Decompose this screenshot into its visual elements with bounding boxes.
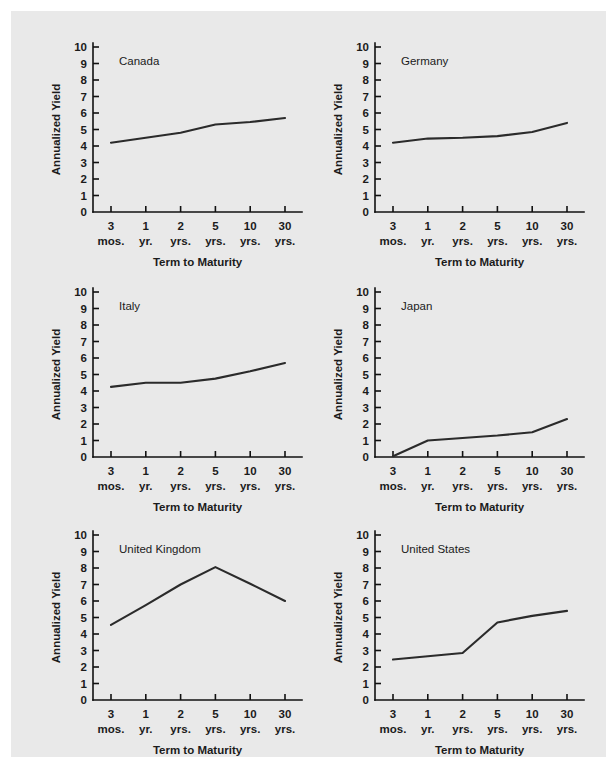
- x-tick-label-unit: yr.: [421, 480, 434, 492]
- x-tick-label-unit: yrs.: [170, 235, 190, 247]
- y-tick-label: 7: [363, 91, 369, 103]
- x-tick-label-unit: yrs.: [275, 480, 295, 492]
- x-tick-label-unit: yrs.: [522, 480, 542, 492]
- y-tick-label: 0: [363, 206, 369, 218]
- y-tick-label: 5: [81, 369, 88, 381]
- y-tick-label: 3: [81, 645, 87, 657]
- chart-italy: 0123456789103mos.1yr.2yrs.5yrs.10yrs.30y…: [25, 270, 315, 515]
- x-tick-label-unit: yrs.: [205, 480, 225, 492]
- x-tick-label-unit: yrs.: [205, 235, 225, 247]
- figure-panel: 0123456789103mos.1yr.2yrs.5yrs.10yrs.30y…: [11, 11, 606, 757]
- y-tick-label: 10: [356, 529, 369, 541]
- x-tick-label-unit: yrs.: [452, 235, 472, 247]
- y-tick-label: 3: [363, 402, 369, 414]
- x-tick-label-unit: yr.: [139, 235, 152, 247]
- y-tick-label: 5: [363, 369, 370, 381]
- y-tick-label: 4: [363, 628, 370, 640]
- x-tick-label-unit: mos.: [98, 235, 125, 247]
- y-tick-label: 1: [81, 435, 88, 447]
- x-tick-label-unit: yrs.: [240, 723, 260, 735]
- x-axis-title: Term to Maturity: [435, 744, 525, 756]
- y-tick-label: 1: [363, 435, 370, 447]
- y-tick-label: 9: [81, 58, 87, 70]
- x-tick-label-unit: yrs.: [522, 723, 542, 735]
- y-tick-label: 4: [81, 140, 88, 152]
- y-tick-label: 10: [74, 529, 87, 541]
- y-tick-label: 8: [363, 319, 370, 331]
- x-tick-label-unit: yrs.: [522, 235, 542, 247]
- x-axis-title: Term to Maturity: [435, 501, 525, 513]
- y-tick-label: 2: [363, 661, 369, 673]
- x-tick-label-value: 1: [425, 220, 432, 232]
- x-tick-label-unit: yrs.: [487, 480, 507, 492]
- x-tick-label-value: 1: [143, 465, 150, 477]
- y-tick-label: 9: [81, 303, 87, 315]
- x-tick-label-value: 3: [390, 465, 396, 477]
- y-tick-label: 10: [74, 286, 87, 298]
- x-tick-label-unit: yrs.: [240, 235, 260, 247]
- y-tick-label: 0: [81, 451, 87, 463]
- chart-title: Germany: [401, 55, 449, 67]
- x-tick-label-unit: mos.: [380, 235, 407, 247]
- y-axis-title: Annualized Yield: [332, 329, 344, 420]
- x-tick-label-value: 1: [143, 708, 150, 720]
- y-tick-label: 2: [81, 173, 87, 185]
- y-axis-title-group: Annualized Yield: [50, 572, 62, 663]
- x-tick-label-unit: yrs.: [170, 723, 190, 735]
- y-tick-label: 5: [363, 612, 370, 624]
- x-tick-label-value: 2: [177, 708, 183, 720]
- chart-title: United States: [401, 543, 470, 555]
- y-tick-label: 4: [363, 140, 370, 152]
- x-axis-title: Term to Maturity: [153, 256, 243, 268]
- x-tick-label-value: 5: [212, 708, 219, 720]
- series-line-yield: [111, 118, 285, 143]
- x-tick-label-value: 1: [143, 220, 150, 232]
- x-tick-label-value: 10: [526, 708, 539, 720]
- y-axis-title-group: Annualized Yield: [50, 329, 62, 420]
- series-line-yield: [393, 419, 567, 456]
- y-tick-label: 7: [363, 579, 369, 591]
- y-axis-title-group: Annualized Yield: [332, 84, 344, 175]
- x-axis-title: Term to Maturity: [153, 501, 243, 513]
- x-tick-label-value: 2: [459, 220, 465, 232]
- y-tick-label: 1: [81, 678, 88, 690]
- y-tick-label: 2: [81, 661, 87, 673]
- y-tick-label: 2: [81, 418, 87, 430]
- series-line-yield: [111, 567, 285, 625]
- x-tick-label-value: 3: [108, 465, 114, 477]
- x-tick-label-unit: yrs.: [240, 480, 260, 492]
- chart-japan: 0123456789103mos.1yr.2yrs.5yrs.10yrs.30y…: [307, 270, 597, 515]
- y-tick-label: 7: [81, 91, 87, 103]
- y-tick-label: 1: [363, 678, 370, 690]
- x-tick-label-unit: yrs.: [487, 235, 507, 247]
- figure-canvas: 0123456789103mos.1yr.2yrs.5yrs.10yrs.30y…: [0, 0, 606, 757]
- x-tick-label-value: 3: [390, 708, 396, 720]
- x-tick-label-unit: yr.: [139, 480, 152, 492]
- chart-title: Italy: [119, 300, 140, 312]
- y-axis-title-group: Annualized Yield: [332, 329, 344, 420]
- y-tick-label: 5: [81, 124, 88, 136]
- y-tick-label: 10: [74, 41, 87, 53]
- x-tick-label-value: 10: [244, 465, 257, 477]
- x-tick-label-value: 30: [279, 220, 292, 232]
- x-tick-label-value: 30: [279, 465, 292, 477]
- y-tick-label: 7: [81, 579, 87, 591]
- x-tick-label-unit: yrs.: [275, 723, 295, 735]
- series-line-yield: [393, 611, 567, 660]
- x-tick-label-value: 10: [244, 708, 257, 720]
- x-tick-label-value: 3: [108, 220, 114, 232]
- x-tick-label-value: 30: [279, 708, 292, 720]
- x-tick-label-unit: yr.: [421, 235, 434, 247]
- y-tick-label: 8: [81, 562, 88, 574]
- y-tick-label: 6: [363, 595, 369, 607]
- chart-united-states: 0123456789103mos.1yr.2yrs.5yrs.10yrs.30y…: [307, 513, 597, 757]
- x-tick-label-unit: yrs.: [557, 235, 577, 247]
- x-tick-label-value: 5: [494, 220, 501, 232]
- chart-title: Canada: [119, 55, 160, 67]
- series-line-yield: [111, 363, 285, 387]
- x-tick-label-value: 5: [212, 220, 219, 232]
- chart-title: Japan: [401, 300, 432, 312]
- x-axis-title: Term to Maturity: [153, 744, 243, 756]
- x-tick-label-unit: yrs.: [487, 723, 507, 735]
- x-tick-label-value: 10: [526, 220, 539, 232]
